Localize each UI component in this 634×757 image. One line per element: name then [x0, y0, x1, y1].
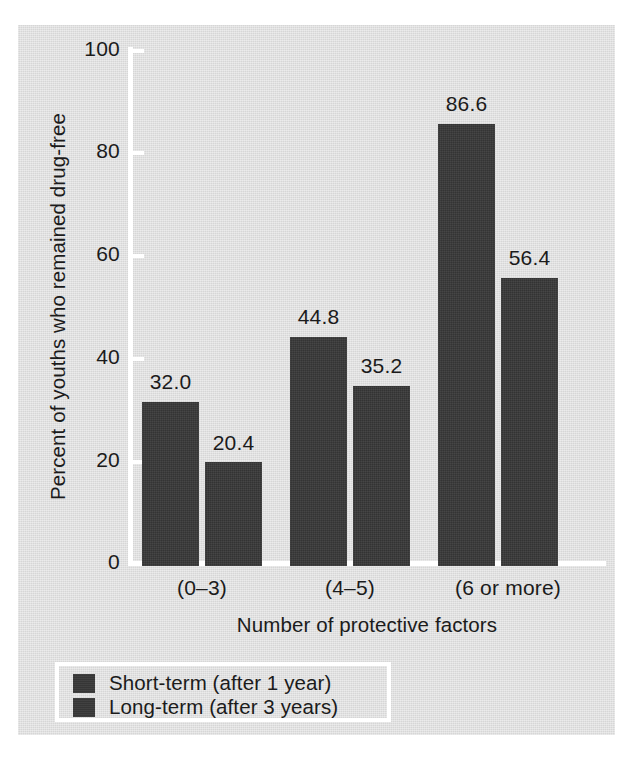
- y-tick-40: [133, 357, 144, 361]
- x-axis-title: Number of protective factors: [128, 613, 606, 637]
- legend-entry-short-term: Short-term (after 1 year): [73, 671, 387, 695]
- y-axis-title: Percent of youths who remained drug-free: [46, 47, 76, 566]
- bar-long-term-4-5: [353, 386, 410, 566]
- y-tick-80: [133, 151, 144, 155]
- figure-panel: Percent of youths who remained drug-free…: [18, 25, 615, 735]
- bar-value-20-4: 20.4: [195, 431, 272, 455]
- bar-long-term-0-3: [205, 462, 262, 566]
- bar-short-term-6-or-more: [438, 124, 495, 566]
- y-axis-line: [128, 47, 133, 566]
- bar-value-56-4: 56.4: [491, 246, 568, 270]
- plot-area: Percent of youths who remained drug-free…: [18, 25, 615, 735]
- y-tick-label-80: 80: [64, 139, 120, 163]
- legend-entry-long-term: Long-term (after 3 years): [73, 695, 387, 719]
- y-tick-label-100: 100: [64, 37, 120, 61]
- legend-label-long-term: Long-term (after 3 years): [109, 695, 338, 719]
- y-tick-label-0: 0: [64, 550, 120, 574]
- legend-label-short-term: Short-term (after 1 year): [109, 671, 331, 695]
- bar-value-32-0: 32.0: [132, 370, 209, 394]
- y-tick-label-20: 20: [64, 448, 120, 472]
- chart-legend: Short-term (after 1 year) Long-term (aft…: [55, 662, 391, 722]
- bar-short-term-0-3: [142, 402, 199, 566]
- bar-long-term-6-or-more: [501, 278, 558, 566]
- y-tick-label-40: 40: [64, 345, 120, 369]
- x-category-label-6-or-more: (6 or more): [438, 576, 578, 600]
- x-category-label-4-5: (4–5): [310, 576, 390, 600]
- legend-swatch-icon-short-term: [73, 674, 95, 693]
- bar-value-44-8: 44.8: [280, 305, 357, 329]
- y-tick-100: [133, 49, 144, 53]
- bar-value-35-2: 35.2: [343, 354, 420, 378]
- y-tick-label-60: 60: [64, 242, 120, 266]
- y-tick-60: [133, 254, 144, 258]
- x-category-label-0-3: (0–3): [162, 576, 242, 600]
- bar-short-term-4-5: [290, 337, 347, 566]
- bar-value-86-6: 86.6: [428, 92, 505, 116]
- legend-swatch-icon-long-term: [73, 698, 95, 717]
